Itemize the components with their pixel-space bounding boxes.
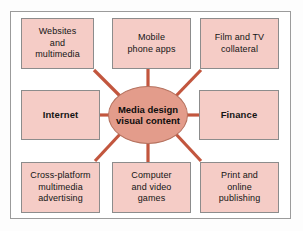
node-finance[interactable]: Finance bbox=[199, 90, 279, 140]
node-label: Websites and multimedia bbox=[35, 26, 80, 61]
node-computer-and-video-games[interactable]: Computer and video games bbox=[112, 162, 191, 213]
node-cross-platform-multimedia-advertising[interactable]: Cross-platform multimedia advertising bbox=[21, 162, 100, 213]
node-label: Finance bbox=[221, 109, 258, 121]
center-node-media-design-visual-content[interactable]: Media design visual content bbox=[108, 86, 188, 144]
node-label: Film and TV collateral bbox=[215, 32, 264, 55]
node-label: Print and online publishing bbox=[219, 170, 261, 205]
node-mobile-phone-apps[interactable]: Mobile phone apps bbox=[112, 18, 191, 69]
node-film-and-tv-collateral[interactable]: Film and TV collateral bbox=[200, 18, 279, 69]
node-internet[interactable]: Internet bbox=[21, 90, 100, 140]
diagram-canvas: Websites and multimedia Mobile phone app… bbox=[0, 0, 303, 231]
center-node-label: Media design visual content bbox=[116, 104, 180, 127]
node-label: Cross-platform multimedia advertising bbox=[30, 170, 90, 205]
node-label: Mobile phone apps bbox=[127, 32, 175, 55]
node-label: Internet bbox=[43, 109, 79, 121]
node-print-and-online-publishing[interactable]: Print and online publishing bbox=[200, 162, 279, 213]
node-websites-and-multimedia[interactable]: Websites and multimedia bbox=[21, 18, 94, 69]
node-label: Computer and video games bbox=[131, 170, 171, 205]
